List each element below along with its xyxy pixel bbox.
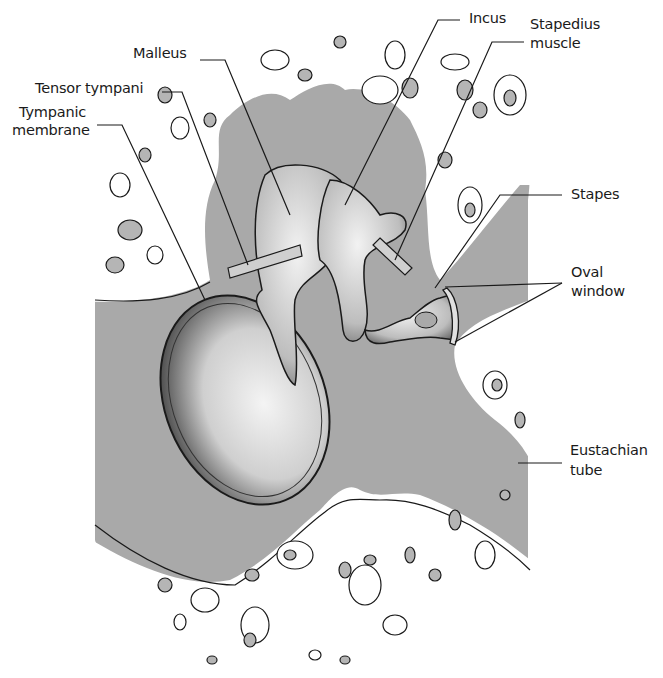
label-malleus: Malleus [133,45,187,62]
label-stapes: Stapes [571,186,619,203]
middle-ear-diagram [0,0,663,678]
label-tympanic-membrane-line1: Tympanic [19,104,86,121]
label-eustachian-tube-line2: tube [570,462,602,479]
label-oval-window-line1: Oval [571,264,603,281]
label-eustachian-tube-line1: Eustachian [570,442,648,459]
label-tympanic-membrane-line2: membrane [12,122,90,139]
label-oval-window-line2: window [571,283,625,300]
label-stapedius-muscle-line1: Stapedius [530,16,600,33]
label-incus: Incus [469,10,506,27]
label-stapedius-muscle-line2: muscle [530,35,581,52]
label-tensor-tympani: Tensor tympani [35,80,143,97]
